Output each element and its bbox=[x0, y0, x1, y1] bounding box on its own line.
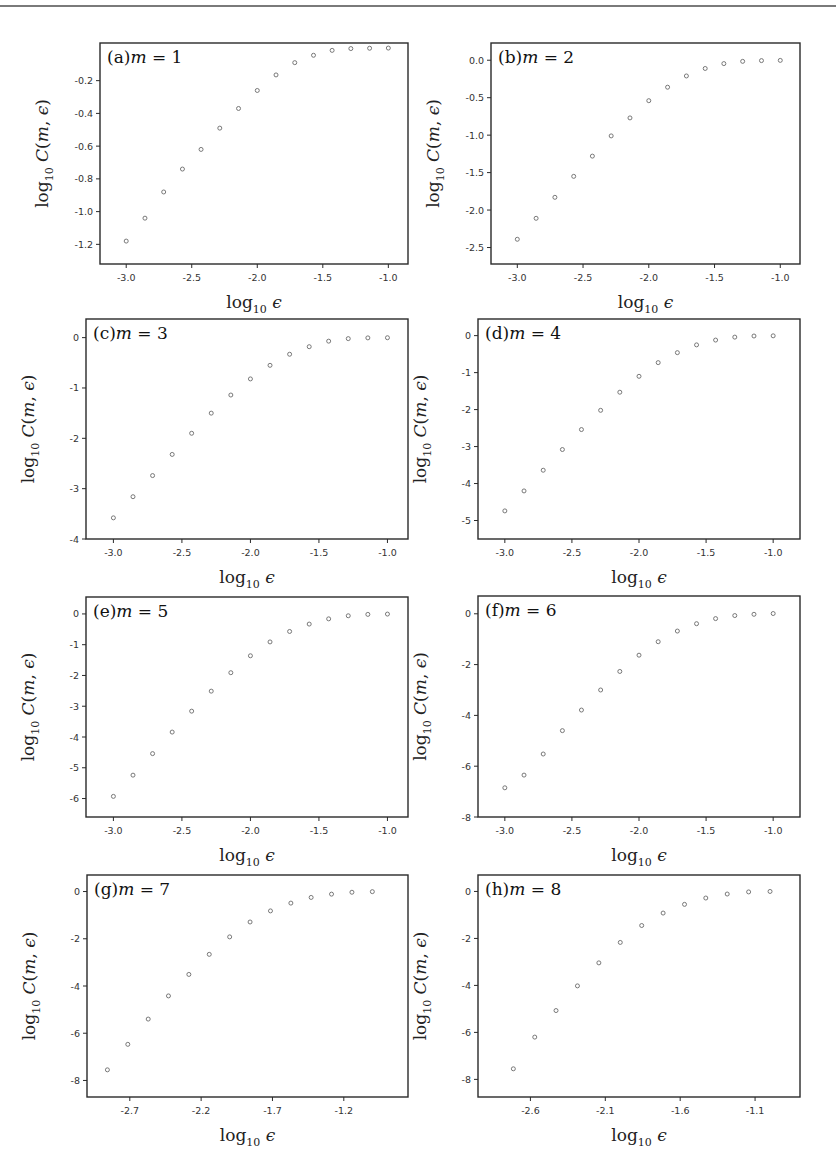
data-point bbox=[111, 794, 115, 798]
data-point bbox=[522, 773, 526, 777]
data-point bbox=[647, 99, 651, 103]
data-point bbox=[695, 622, 699, 626]
y-tick-label: -4 bbox=[462, 710, 471, 721]
x-tick-label: -2.5 bbox=[563, 825, 582, 836]
x-tick-label: -1.0 bbox=[764, 825, 783, 836]
y-tick-label: 0 bbox=[73, 332, 79, 343]
data-point bbox=[248, 377, 252, 381]
y-tick-label: -6 bbox=[71, 1028, 80, 1039]
data-point bbox=[771, 334, 775, 338]
scatter-plot: -3.0-2.5-2.0-1.5-1.0-2.5-2.0-1.5-1.0-0.5… bbox=[491, 43, 800, 264]
data-point bbox=[268, 909, 272, 913]
data-point bbox=[515, 237, 519, 241]
data-point bbox=[146, 1017, 150, 1021]
data-point bbox=[541, 752, 545, 756]
data-point bbox=[207, 952, 211, 956]
plot-frame bbox=[478, 875, 800, 1097]
data-point bbox=[675, 351, 679, 355]
y-tick-label: -3 bbox=[462, 441, 471, 452]
data-point bbox=[759, 59, 763, 63]
data-point bbox=[771, 612, 775, 616]
data-point bbox=[366, 612, 370, 616]
y-tick-label: -2 bbox=[462, 404, 471, 415]
data-point bbox=[199, 147, 203, 151]
data-point bbox=[554, 1009, 558, 1013]
x-tick-label: -3.0 bbox=[117, 272, 136, 283]
x-tick-label: -2.5 bbox=[574, 272, 593, 283]
x-tick-label: -1.0 bbox=[378, 825, 397, 836]
y-tick-label: -6 bbox=[70, 793, 79, 804]
x-tick-label: -2.0 bbox=[248, 272, 267, 283]
data-point bbox=[656, 361, 660, 365]
data-point bbox=[385, 336, 389, 340]
y-tick-label: -6 bbox=[462, 761, 471, 772]
data-point bbox=[747, 890, 751, 894]
data-point bbox=[229, 671, 233, 675]
x-tick-label: -2.5 bbox=[173, 547, 192, 558]
data-point bbox=[703, 66, 707, 70]
y-tick-label: -1.2 bbox=[74, 239, 93, 250]
y-tick-label: -1 bbox=[70, 639, 79, 650]
y-tick-label: -2 bbox=[462, 659, 471, 670]
data-point bbox=[666, 85, 670, 89]
y-tick-label: -1.0 bbox=[74, 206, 93, 217]
y-tick-label: -2 bbox=[70, 670, 79, 681]
data-point bbox=[131, 773, 135, 777]
data-point bbox=[124, 239, 128, 243]
data-point bbox=[255, 88, 259, 92]
y-tick-label: -4 bbox=[462, 980, 471, 991]
panel-d: -3.0-2.5-2.0-1.5-1.0-5-4-3-2-10(d)m = 4l… bbox=[478, 319, 800, 539]
scatter-plot: -3.0-2.5-2.0-1.5-1.0-1.2-1.0-0.8-0.6-0.4… bbox=[100, 43, 408, 264]
data-point bbox=[714, 617, 718, 621]
y-tick-label: -8 bbox=[462, 1074, 471, 1085]
data-point bbox=[733, 335, 737, 339]
plot-frame bbox=[478, 319, 800, 539]
data-point bbox=[637, 374, 641, 378]
data-point bbox=[309, 895, 313, 899]
panel-label: (c)m = 3 bbox=[93, 323, 168, 343]
data-point bbox=[151, 752, 155, 756]
x-tick-label: -1.0 bbox=[764, 547, 783, 558]
y-tick-label: -4 bbox=[70, 732, 79, 743]
data-point bbox=[218, 126, 222, 130]
panel-label: (h)m = 8 bbox=[485, 879, 561, 899]
data-point bbox=[180, 167, 184, 171]
y-axis-label: log10 C(m, ϵ) bbox=[410, 932, 434, 1041]
data-point bbox=[553, 195, 557, 199]
data-point bbox=[307, 345, 311, 349]
data-point bbox=[579, 708, 583, 712]
data-point bbox=[618, 669, 622, 673]
data-point bbox=[575, 984, 579, 988]
data-point bbox=[695, 343, 699, 347]
y-tick-label: -4 bbox=[462, 478, 471, 489]
x-axis-label: log10 ϵ bbox=[611, 567, 667, 591]
data-point bbox=[126, 1042, 130, 1046]
data-point bbox=[330, 48, 334, 52]
x-tick-label: -1.1 bbox=[746, 1105, 765, 1116]
data-point bbox=[572, 174, 576, 178]
x-axis-label: log10 ϵ bbox=[618, 292, 674, 316]
panel-h: -2.6-2.1-1.6-1.1-8-6-4-20(h)m = 8log10 ϵ… bbox=[478, 875, 800, 1097]
data-point bbox=[533, 1035, 537, 1039]
data-point bbox=[503, 509, 507, 513]
data-point bbox=[190, 709, 194, 713]
y-tick-label: 0 bbox=[465, 330, 471, 341]
data-point bbox=[637, 653, 641, 657]
x-tick-label: -1.5 bbox=[310, 825, 329, 836]
x-tick-label: -2.0 bbox=[640, 272, 659, 283]
plot-frame bbox=[491, 43, 800, 264]
data-point bbox=[162, 190, 166, 194]
scatter-plot: -3.0-2.5-2.0-1.5-1.0-4-3-2-10(c)m = 3log… bbox=[86, 319, 408, 539]
data-point bbox=[511, 1067, 515, 1071]
panel-label: (f)m = 6 bbox=[485, 600, 557, 620]
x-axis-label: log10 ϵ bbox=[611, 1125, 667, 1149]
data-point bbox=[733, 614, 737, 618]
data-point bbox=[288, 629, 292, 633]
data-point bbox=[209, 689, 213, 693]
data-point bbox=[209, 411, 213, 415]
x-tick-label: -1.5 bbox=[697, 547, 716, 558]
x-tick-label: -3.0 bbox=[496, 825, 515, 836]
data-point bbox=[579, 428, 583, 432]
x-tick-label: -1.0 bbox=[379, 272, 398, 283]
y-tick-label: 0 bbox=[73, 608, 79, 619]
